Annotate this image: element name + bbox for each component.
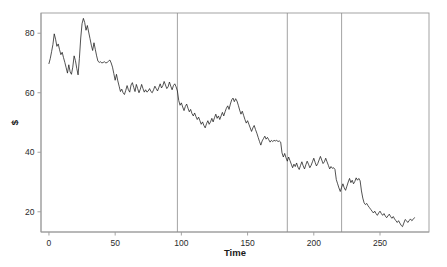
y-axis-tick-label: 40 [25, 147, 35, 157]
y-axis-tick-label: 20 [25, 207, 35, 217]
x-axis-title: Time [224, 247, 246, 258]
x-axis-tick-label: 50 [110, 238, 120, 248]
time-series-chart: 20406080 050100150200250 $ Time [0, 0, 447, 267]
x-axis-tick-label: 150 [240, 238, 254, 248]
y-axis-tick-label: 80 [25, 28, 35, 38]
x-axis-tick-label: 250 [373, 238, 387, 248]
x-axis-tick-label: 200 [307, 238, 321, 248]
x-axis-tick-label: 0 [47, 238, 52, 248]
x-axis-tick-label: 100 [174, 238, 188, 248]
y-axis-tick-label: 60 [25, 88, 35, 98]
y-axis-title: $ [9, 119, 20, 125]
chart-background [0, 0, 447, 267]
